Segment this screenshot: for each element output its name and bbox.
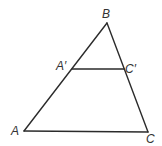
- segment-ab: [24, 23, 107, 131]
- label-a-prime: A′: [55, 59, 67, 73]
- label-a: A: [10, 124, 19, 138]
- label-c-prime: C′: [125, 62, 137, 76]
- segment-ac: [24, 131, 148, 132]
- label-c: C: [146, 132, 155, 146]
- label-b: B: [102, 7, 110, 21]
- segment-bc: [107, 23, 148, 132]
- triangle-diagram: B A′ C′ A C: [0, 0, 162, 146]
